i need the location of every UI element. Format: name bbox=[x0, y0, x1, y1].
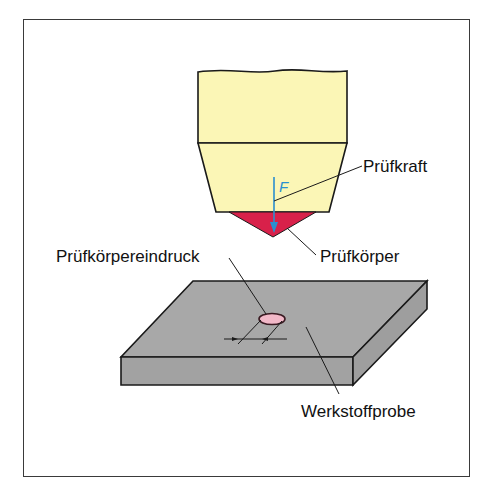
label-test-force: Prüfkraft bbox=[363, 158, 427, 175]
specimen-front-face bbox=[121, 357, 353, 385]
label-indenter: Prüfkörper bbox=[320, 248, 399, 265]
indentation-mark bbox=[259, 314, 285, 325]
label-indentation: Prüfkörpereindruck bbox=[56, 248, 200, 265]
indenter-shaft bbox=[198, 70, 347, 143]
label-specimen: Werkstoffprobe bbox=[301, 403, 416, 420]
force-symbol: F bbox=[279, 179, 288, 194]
indenter-holder bbox=[198, 143, 347, 212]
leader-line-indenter bbox=[287, 228, 316, 255]
